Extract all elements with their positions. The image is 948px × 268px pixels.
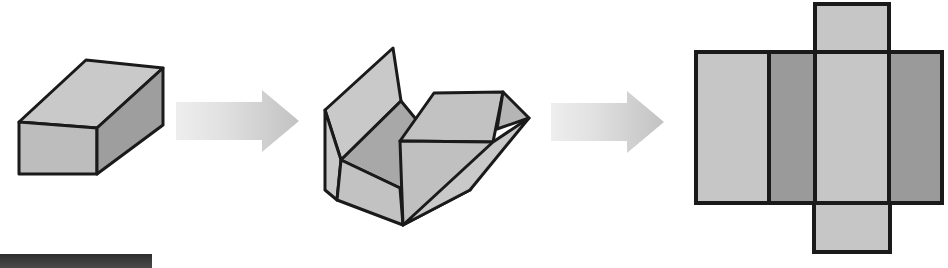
net-panel-4: [889, 52, 942, 203]
front-face: [19, 122, 97, 174]
net-bottom-flap: [814, 203, 890, 252]
net-panel-3: [815, 52, 889, 203]
figure-root: Unfolding a rectangular box into its net: [0, 0, 948, 268]
net-top-flap: [815, 4, 889, 52]
net-panel-2: [769, 52, 815, 203]
diagram-canvas: Unfolding a rectangular box into its net: [0, 0, 948, 268]
bottom-left-bar: [0, 254, 152, 268]
net-panel-1: [696, 52, 769, 203]
